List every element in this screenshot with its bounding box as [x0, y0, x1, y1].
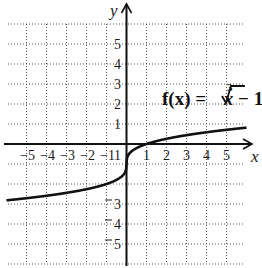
y-tick-label: 1: [114, 117, 121, 132]
svg-text:f(x) = x − 1: f(x) = x − 1: [162, 88, 262, 110]
axes: x y: [4, 1, 259, 266]
y-tick-label: 5: [114, 37, 121, 52]
y-axis-label: y: [108, 1, 118, 20]
y-tick-label: 4: [114, 217, 121, 232]
x-tick-label: −4: [40, 148, 55, 163]
function-label: f(x) = x − 1 3: [162, 81, 262, 110]
x-tick-label: −5: [20, 148, 35, 163]
x-tick-label: −1: [100, 148, 115, 163]
x-tick-label: 5: [223, 148, 230, 163]
x-axis-label: x: [250, 147, 259, 166]
y-tick-label: 1: [114, 148, 121, 163]
cube-root-function-plot: x y −5−4−3−2−112345543211345 f(x) = x − …: [0, 0, 262, 268]
x-tick-label: −2: [80, 148, 95, 163]
x-tick-label: 3: [183, 148, 190, 163]
function-lhs: f(x) =: [162, 88, 211, 110]
x-tick-label: −3: [60, 148, 75, 163]
y-tick-label: 5: [114, 237, 121, 252]
x-tick-label: 2: [163, 148, 170, 163]
x-tick-label: 1: [143, 148, 150, 163]
y-tick-label: 3: [114, 197, 121, 212]
y-tick-label: 2: [114, 97, 121, 112]
y-tick-label: 3: [114, 77, 121, 92]
x-tick-label: 4: [203, 148, 210, 163]
function-rhs: − 1: [233, 88, 262, 109]
y-tick-label: 4: [114, 57, 121, 72]
